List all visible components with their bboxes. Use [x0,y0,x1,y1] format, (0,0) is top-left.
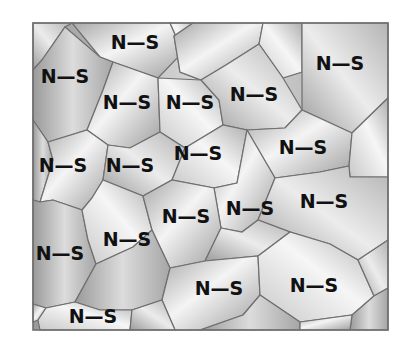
domain-label: N—S [300,190,349,212]
domain-label: N—S [103,228,152,250]
domain-label: N—S [316,52,365,74]
domain-label: N—S [195,277,244,299]
domain-label: N—S [226,197,275,219]
domain-label: N—S [106,154,155,176]
domain-label: N—S [103,91,152,113]
domain-label: N—S [39,154,88,176]
domain-label: N—S [41,65,90,87]
domain-label: N—S [69,305,118,327]
domain-label: N—S [166,91,215,113]
domain-label: N—S [279,136,328,158]
domain-label: N—S [162,205,211,227]
domain-label: N—S [230,83,279,105]
domain-label: N—S [36,242,85,264]
magnetic-domains-diagram: N—SN—SN—SN—SN—SN—SN—SN—SN—SN—SN—SN—SN—SN… [0,0,415,353]
domain-label: N—S [111,31,160,53]
domain-label: N—S [174,142,223,164]
domain-label: N—S [290,274,339,296]
